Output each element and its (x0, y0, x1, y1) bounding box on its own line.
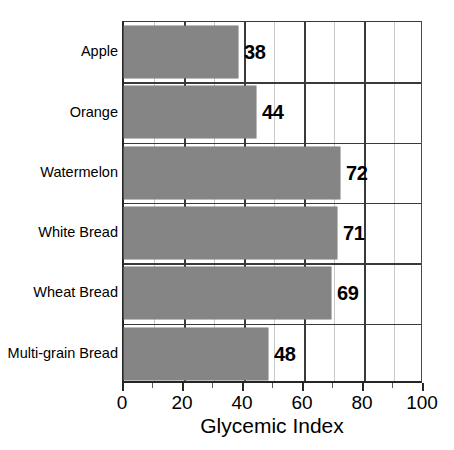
glycemic-index-bar-chart: Apple Orange Watermelon White Bread Whea… (0, 0, 454, 450)
bar-value-apple: 38 (244, 41, 266, 64)
x-tick-major-100 (422, 383, 424, 391)
bar-value-white-bread: 71 (343, 222, 365, 245)
bar-value-wheat-bread: 69 (337, 282, 359, 305)
x-tick-major-20 (182, 383, 184, 391)
category-label-watermelon: Watermelon (0, 164, 118, 180)
category-label-wheat-bread: Wheat Bread (0, 284, 118, 300)
x-ticklabel-0: 0 (117, 392, 128, 414)
x-axis-title: Glycemic Index (122, 414, 422, 438)
category-label-multi-grain-bread: Multi-grain Bread (0, 345, 118, 361)
x-tick-major-60 (302, 383, 304, 391)
bar-band-multi-grain-bread: 48 (124, 324, 421, 384)
x-tick-major-0 (122, 383, 124, 391)
bar-multi-grain-bread (124, 328, 268, 380)
bar-orange (124, 86, 256, 138)
bar-band-white-bread: 71 (124, 203, 421, 263)
bar-value-orange: 44 (262, 101, 284, 124)
x-tick-minor-70 (332, 383, 333, 388)
x-tick-minor-10 (152, 383, 153, 388)
category-label-apple: Apple (0, 43, 118, 59)
bar-wheat-bread (124, 267, 331, 319)
x-tick-major-80 (362, 383, 364, 391)
bar-watermelon (124, 147, 340, 199)
bar-band-orange: 44 (124, 82, 421, 142)
bar-white-bread (124, 207, 337, 259)
x-tick-minor-30 (212, 383, 213, 388)
bar-band-apple: 38 (124, 22, 421, 82)
category-label-orange: Orange (0, 104, 118, 120)
x-ticklabel-100: 100 (406, 392, 438, 414)
category-axis-labels: Apple Orange Watermelon White Bread Whea… (0, 21, 118, 383)
bar-apple (124, 26, 238, 78)
x-ticklabel-20: 20 (171, 392, 192, 414)
x-tick-major-40 (242, 383, 244, 391)
bar-value-multi-grain-bread: 48 (274, 342, 296, 365)
x-tick-minor-50 (272, 383, 273, 388)
x-tick-minor-90 (392, 383, 393, 388)
category-label-white-bread: White Bread (0, 224, 118, 240)
x-ticklabel-60: 60 (291, 392, 312, 414)
bar-value-watermelon: 72 (346, 161, 368, 184)
x-ticklabel-80: 80 (351, 392, 372, 414)
bar-band-watermelon: 72 (124, 143, 421, 203)
x-axis-tick-labels: 0 20 40 60 80 100 (122, 392, 422, 416)
plot-area: 38 44 72 71 69 48 (122, 21, 422, 383)
bar-band-wheat-bread: 69 (124, 263, 421, 323)
x-ticklabel-40: 40 (231, 392, 252, 414)
